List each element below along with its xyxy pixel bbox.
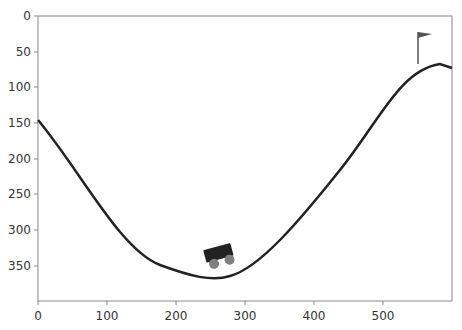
y-tick-label: 300 (8, 223, 31, 237)
x-axis: 0 100 200 300 400 500 (34, 301, 394, 323)
y-tick-label: 100 (8, 80, 31, 94)
y-tick-label: 50 (16, 45, 31, 59)
y-tick-label: 350 (8, 259, 31, 273)
game-canvas: 0 100 200 300 400 500 0 50 100 150 200 2… (0, 0, 462, 330)
x-tick-label: 400 (303, 309, 326, 323)
y-tick-label: 150 (8, 116, 31, 130)
x-tick-label: 0 (34, 309, 42, 323)
axes-frame (38, 16, 452, 301)
x-tick-label: 200 (165, 309, 188, 323)
x-tick-label: 500 (372, 309, 395, 323)
y-tick-label: 0 (23, 9, 31, 23)
y-tick-label: 200 (8, 152, 31, 166)
y-axis: 0 50 100 150 200 250 300 350 (8, 9, 38, 273)
y-tick-label: 250 (8, 187, 31, 201)
x-tick-label: 300 (234, 309, 257, 323)
x-tick-label: 100 (96, 309, 119, 323)
